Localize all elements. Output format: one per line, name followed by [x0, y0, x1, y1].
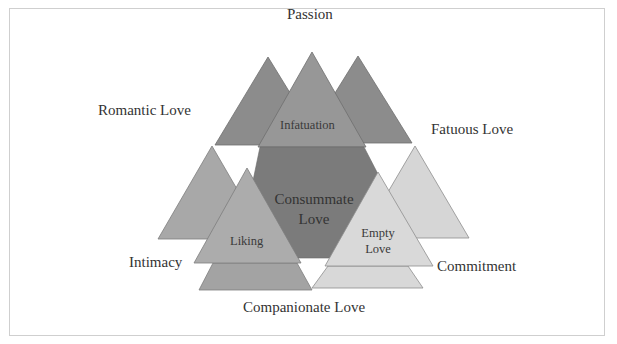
- infatuation-label: Infatuation: [280, 118, 335, 134]
- fatuous-love-label: Fatuous Love: [431, 121, 513, 138]
- consummate-love-label: Consummate Love: [268, 190, 360, 229]
- companionate-right-trapezoid: [312, 266, 423, 288]
- consummate-line2: Love: [268, 210, 360, 230]
- romantic-love-label: Romantic Love: [98, 102, 191, 119]
- consummate-line1: Consummate: [268, 190, 360, 210]
- liking-label: Liking: [230, 234, 263, 250]
- companionate-love-label: Companionate Love: [243, 299, 365, 316]
- empty-love-label: Empty Love: [352, 226, 404, 257]
- commitment-label: Commitment: [437, 258, 516, 275]
- companionate-left-trapezoid: [199, 263, 312, 290]
- intimacy-label: Intimacy: [129, 254, 182, 271]
- passion-label: Passion: [287, 6, 333, 23]
- empty-line1: Empty: [352, 226, 404, 242]
- love-triangle-diagram: [0, 0, 617, 344]
- empty-line2: Love: [352, 242, 404, 258]
